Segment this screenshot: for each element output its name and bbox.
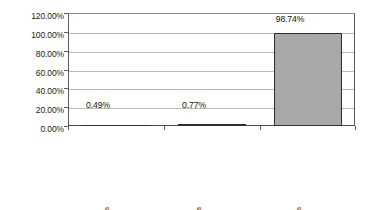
bar-chart: 120.00% 100.00% 80.00% 60.00% 40.00% 20.… [0, 0, 377, 210]
bar-major-industrial-sources[interactable] [274, 33, 342, 126]
x-category-label-line: transportations [102, 207, 112, 210]
value-label-factories-houses-and-businesses: 0.77% [144, 100, 244, 110]
y-tick-label: 40.00% [0, 87, 64, 96]
y-tick-label: 60.00% [0, 68, 64, 77]
y-tick-label: 80.00% [0, 49, 64, 58]
y-tick-label: 120.00% [0, 12, 64, 21]
x-category-label-line: sources [294, 207, 304, 210]
x-tickmark [164, 126, 165, 130]
x-tickmark [260, 126, 261, 130]
bar-slot [274, 13, 342, 126]
x-tickmark [68, 126, 69, 130]
value-label-all-means-of-transportations: 0.49% [48, 100, 148, 110]
bar-factories-houses-and-businesses[interactable] [178, 124, 246, 126]
x-axis: All means of transportations Factories, … [0, 131, 377, 210]
x-category-label-line: businesses [194, 207, 204, 210]
x-category-label-all-means-of-transportations: All means of transportations [102, 207, 112, 210]
x-tickmark [355, 126, 356, 130]
value-label-major-industrial-sources: 98.74% [240, 14, 340, 24]
y-tick-label: 100.00% [0, 30, 64, 39]
x-category-label-major-industrial-sources: Major industrial sources [294, 207, 304, 210]
bar-all-means-of-transportations[interactable] [82, 125, 150, 126]
x-category-label-factories-houses-and-businesses: Factories, houses and businesses [194, 207, 204, 210]
